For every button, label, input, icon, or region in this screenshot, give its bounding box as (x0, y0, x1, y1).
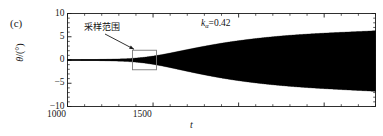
y-tick-label: −10 (50, 101, 65, 111)
sampling-range-annotation: 采样范围 (84, 20, 120, 33)
y-axis-label: θ/(°) (14, 26, 25, 80)
parameter-annotation: kα=0.42 (201, 18, 231, 29)
x-tick-label: 1500 (133, 109, 152, 119)
arrow-shaft (105, 34, 134, 49)
parameter-value: =0.42 (209, 18, 231, 28)
y-axis-label-symbol: θ (14, 57, 25, 62)
sampling-range-arrow (105, 34, 134, 49)
y-tick-label: −5 (54, 77, 64, 87)
x-axis-label: t (0, 119, 383, 130)
y-tick-label: 5 (60, 31, 65, 41)
oscillation-curve (68, 31, 376, 92)
x-tick-label: 1000 (47, 109, 66, 119)
figure-panel-c: (c) θ/(°) t 0500100015001050−5−10 采样范围 k… (0, 0, 383, 136)
y-tick-label: 10 (55, 8, 65, 18)
y-tick-label: 0 (60, 54, 65, 64)
y-axis-label-unit: /(°) (14, 43, 25, 56)
